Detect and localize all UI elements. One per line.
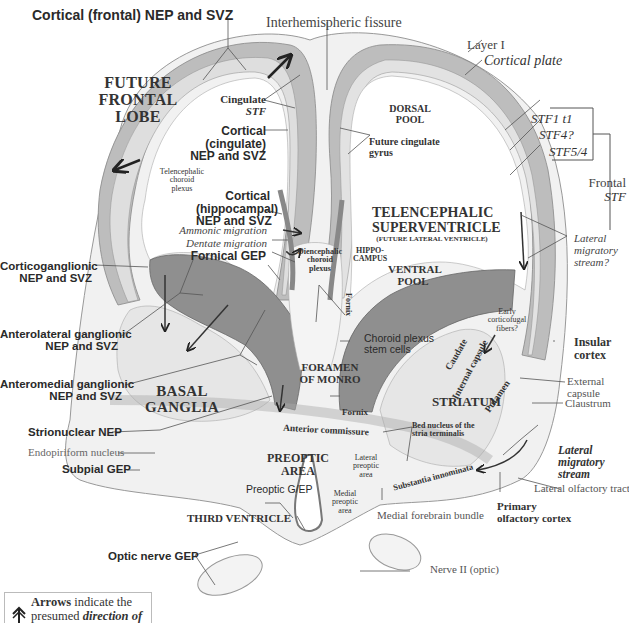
label-stf4: STF4? bbox=[539, 128, 574, 142]
label-fornix: Fornix bbox=[342, 408, 368, 417]
region-telencephalic-superventricle: TELENCEPHALIC SUPERVENTRICLE bbox=[372, 206, 492, 235]
double-arrow-up-icon bbox=[11, 605, 27, 623]
nerve-ii-shape bbox=[364, 527, 426, 577]
label-cortical-frontal-nep: Cortical (frontal) NEP and SVZ bbox=[32, 8, 233, 23]
label-fornical-gep: Fornical GEP bbox=[190, 250, 266, 263]
label-fornix-vertical: Fornix bbox=[344, 293, 352, 316]
label-frontal-stf: Frontal STF bbox=[574, 176, 626, 203]
label-interhemispheric-fissure: Interhemispheric fissure bbox=[266, 16, 402, 31]
label-anteromedial-ganglionic-nep: Anteromedial ganglionic NEP and SVZ bbox=[0, 378, 122, 402]
label-optic-nerve-gep: Optic nerve GEP bbox=[108, 550, 199, 562]
label-anterolateral-ganglionic-nep: Anterolateral ganglionic NEP and SVZ bbox=[0, 328, 118, 352]
legend-text: Arrows indicate the presumed direction o… bbox=[31, 596, 142, 623]
label-endopiriform-nucleus: Endopiriform nucleus bbox=[28, 447, 124, 459]
label-claustrum: Claustrum bbox=[565, 398, 611, 410]
label-layer-i: Layer I bbox=[467, 38, 505, 52]
region-hippocampus: HIPPO- CAMPUS bbox=[350, 247, 390, 264]
label-subpial-gep: Subpial GEP bbox=[62, 463, 131, 475]
label-stf1-t1: STF1 t1 bbox=[531, 112, 573, 126]
label-external-capsule: External capsule bbox=[567, 376, 604, 399]
label-corticoganglionic-nep: Corticoganglionic NEP and SVZ bbox=[0, 260, 92, 284]
label-strionuclear-nep: Strionuclear NEP bbox=[28, 426, 122, 438]
label-primary-olfactory-cortex: Primary olfactory cortex bbox=[497, 501, 571, 524]
region-third-ventricle: THIRD VENTRICLE bbox=[187, 513, 291, 525]
region-future-frontal-lobe: FUTURE FRONTAL LOBE bbox=[98, 75, 178, 125]
label-choroid-plexus-stem-cells: Choroid plexus stem cells bbox=[364, 333, 434, 355]
region-basal-ganglia: BASAL GANGLIA bbox=[142, 384, 222, 416]
label-ammonic-migration: Ammonic migration bbox=[170, 225, 267, 237]
label-cortical-plate: Cortical plate bbox=[484, 54, 562, 69]
anatomy-artwork bbox=[0, 0, 629, 623]
optic-nerve-gep-shape bbox=[192, 547, 268, 604]
label-dentate-migration: Dentate migration bbox=[170, 238, 267, 250]
label-preoptic-gep: Preoptic G/EP bbox=[246, 484, 313, 495]
label-lateral-migratory-stream-q: Lateral migratory stream? bbox=[574, 232, 618, 268]
label-diencephalic-choroid-plexus: Diencephalic choroid plexus bbox=[295, 248, 345, 273]
label-lateral-migratory-stream: Lateral migratory stream bbox=[558, 444, 605, 480]
label-lateral-olfactory-tract: Lateral olfactory tract bbox=[534, 483, 629, 495]
label-bed-nucleus: Bed nucleus of the stria terminalis bbox=[412, 422, 474, 439]
arrow-legend: Arrows indicate the presumed direction o… bbox=[4, 592, 152, 623]
label-nerve-ii-optic: Nerve II (optic) bbox=[430, 564, 499, 576]
label-stf5-4: STF5/4 bbox=[549, 145, 587, 159]
label-early-corticofugal-fibers: Early corticofugal fibers? bbox=[484, 308, 530, 333]
brain-section-diagram: Cortical (frontal) NEP and SVZ Interhemi… bbox=[0, 0, 629, 623]
region-dorsal-pool: DORSAL POOL bbox=[385, 104, 435, 125]
label-future-lateral-ventricle: (FUTURE LATERAL VENTRICLE) bbox=[372, 236, 492, 243]
region-foramen-of-monro: FORAMEN OF MONRO bbox=[295, 362, 365, 385]
label-cingulate-stf: STF bbox=[230, 106, 266, 118]
label-insular-cortex: Insular cortex bbox=[574, 336, 611, 361]
label-cortical-cingulate-nep: Cortical (cingulate) NEP and SVZ bbox=[190, 125, 266, 163]
label-cortical-hippocampal-nep: Cortical (hippocampal) NEP and SVZ bbox=[196, 190, 270, 228]
region-preoptic-area: PREOPTIC AREA bbox=[263, 452, 333, 477]
region-ventral-pool: VENTRAL POOL bbox=[388, 264, 438, 287]
label-cingulate: Cingulate bbox=[212, 94, 266, 106]
label-medial-forebrain-bundle: Medial forebrain bundle bbox=[377, 510, 484, 522]
label-lateral-preoptic-area: Lateral preoptic area bbox=[346, 454, 386, 479]
label-medial-preoptic-area: Medial preoptic area bbox=[325, 490, 365, 515]
label-future-cingulate-gyrus: Future cingulate gyrus bbox=[369, 137, 440, 158]
